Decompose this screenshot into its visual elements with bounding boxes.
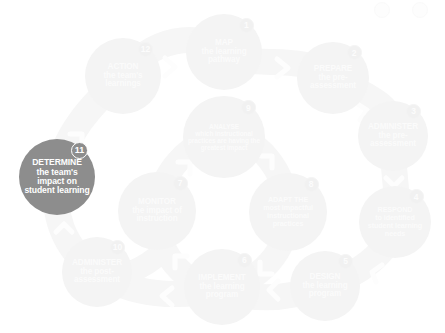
step-body-6: the learning program	[187, 283, 257, 301]
step-number-badge-11: 11	[71, 142, 88, 159]
step-label-12: ACTIONthe team's learnings	[85, 63, 161, 90]
step-label-6: IMPLEMENTthe learning program	[184, 274, 260, 301]
step-body-1: the learning pathway	[189, 48, 259, 66]
diagram-canvas: MAPthe learning pathway1PREPAREthe pre-a…	[0, 0, 445, 333]
step-body-3: the pre-assessment	[361, 132, 425, 150]
step-body-4: to identified student learning needs	[362, 214, 428, 237]
step-label-9: ANALYSEwhich instructional practices are…	[183, 123, 265, 151]
step-number-badge-12: 12	[138, 42, 153, 57]
step-label-1: MAPthe learning pathway	[186, 39, 262, 66]
step-body-7: the impact of instruction	[121, 207, 193, 225]
step-body-11: the team's impact on student learning	[22, 168, 92, 196]
step-label-7: MONITORthe impact of instruction	[118, 198, 196, 225]
step-body-2: the pre-assessment	[300, 74, 366, 92]
step-number-badge-8: 8	[304, 177, 319, 192]
step-number-badge-10: 10	[110, 240, 125, 255]
step-number-badge-4: 4	[409, 189, 424, 204]
step-label-5: DESIGNthe learning program	[290, 273, 360, 300]
step-label-4: RESPONDto identified student learning ne…	[359, 206, 431, 237]
step-number-badge-3: 3	[406, 104, 421, 119]
step-body-9: which instructional practices are having…	[186, 130, 262, 151]
corner-mark-right	[412, 2, 428, 18]
step-body-8: most impactful instructional practices	[252, 204, 324, 227]
step-number-badge-7: 7	[173, 176, 188, 191]
step-number-badge-2: 2	[347, 45, 362, 60]
step-number-badge-1: 1	[239, 18, 254, 33]
corner-mark-left	[374, 2, 390, 18]
step-label-3: ADMINISTERthe pre-assessment	[358, 123, 428, 150]
step-body-12: the team's learnings	[88, 72, 158, 90]
step-label-2: PREPAREthe pre-assessment	[297, 65, 369, 92]
step-body-10: the post-assessment	[65, 268, 129, 286]
step-label-8: ADAPT themost impactful instructional pr…	[249, 196, 327, 227]
step-label-11: DETERMINEthe team's impact on student le…	[19, 158, 95, 195]
step-label-10: ADMINISTERthe post-assessment	[62, 259, 132, 286]
step-body-5: the learning program	[293, 282, 357, 300]
step-head-9: ANALYSE	[186, 123, 262, 130]
step-number-badge-5: 5	[338, 254, 353, 269]
step-number-badge-6: 6	[237, 253, 252, 268]
chevron-right-icon-12-1	[165, 58, 175, 76]
